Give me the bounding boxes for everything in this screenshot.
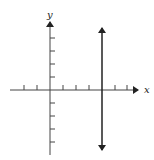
x-ticks: [24, 85, 127, 90]
y-axis-label: y: [46, 9, 53, 20]
x-axis-label: x: [144, 84, 150, 95]
coordinate-plane: y x: [0, 0, 154, 160]
